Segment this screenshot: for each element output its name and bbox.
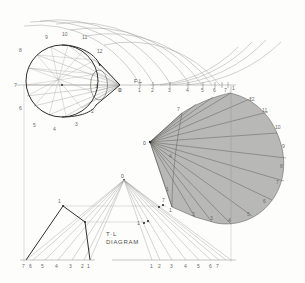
plan-label-5: 5 bbox=[33, 122, 36, 128]
tl-left-tick-7: 7 bbox=[22, 263, 25, 269]
tl-right-tick-3: 3 bbox=[170, 263, 173, 269]
dev-label-11: 11 bbox=[262, 107, 267, 113]
tl-right-tick-7: 7 bbox=[216, 263, 219, 269]
tl-left-tick-1: 1 bbox=[87, 263, 90, 269]
tl-right-tick-4: 4 bbox=[184, 263, 187, 269]
dev-label-12: 12 bbox=[249, 96, 255, 102]
radius-swing-arcs bbox=[24, 20, 281, 85]
dev-inner-label-1: 1 bbox=[166, 186, 169, 192]
fl-tick-3: 3 bbox=[168, 87, 171, 93]
tl-point-left-lower bbox=[84, 221, 86, 223]
plan-label-3: 3 bbox=[75, 121, 78, 127]
plan-label-4: 4 bbox=[53, 126, 56, 132]
tl-point-right-lower-b bbox=[143, 222, 145, 224]
dev-inner-label-4: 4 bbox=[169, 153, 172, 159]
fl-tick-2: 2 bbox=[151, 87, 154, 93]
cone-upper-outline bbox=[62, 45, 100, 66]
plan-apex-label: 0 bbox=[118, 87, 121, 93]
tl-point-right-upper-b bbox=[158, 206, 160, 208]
dev-label-1-top: 1 bbox=[232, 85, 235, 91]
tl-caption-line1: T·L bbox=[106, 231, 117, 237]
cone-base-circle bbox=[26, 45, 98, 117]
fl-baseline-scale: F.L 0 1 2 3 4 5 6 7 bbox=[16, 78, 236, 93]
plan-label-11: 11 bbox=[82, 34, 87, 40]
tl-left-tick-4: 4 bbox=[55, 263, 58, 269]
plan-label-6: 6 bbox=[19, 105, 22, 111]
dev-label-4: 4 bbox=[228, 217, 231, 223]
dev-label-3: 3 bbox=[210, 215, 213, 221]
tl-right-tick-2: 2 bbox=[158, 263, 161, 269]
dev-label-5: 5 bbox=[247, 211, 250, 217]
tl-apex-label: 0 bbox=[121, 173, 124, 179]
dev-label-1-bot: 1 bbox=[169, 207, 172, 213]
tl-right-tick-6: 6 bbox=[209, 263, 212, 269]
tl-left-tick-6: 6 bbox=[29, 263, 32, 269]
dev-label-9: 9 bbox=[282, 143, 285, 149]
plan-centre-mark bbox=[61, 84, 63, 86]
dev-label-10: 10 bbox=[275, 124, 281, 130]
technical-drawing-canvas: F.L 0 1 2 3 4 5 6 7 bbox=[0, 0, 305, 283]
fl-tick-1: 1 bbox=[138, 87, 141, 93]
plan-label-10: 10 bbox=[62, 31, 68, 37]
tl-point-right-lower bbox=[147, 220, 149, 222]
dev-apex-label: 0 bbox=[143, 140, 146, 146]
dev-label-7: 7 bbox=[276, 179, 279, 185]
tl-left-tick-3: 3 bbox=[69, 263, 72, 269]
dev-inner-label-7: 7 bbox=[177, 106, 180, 112]
tl-label-right-7: 7 bbox=[162, 197, 165, 203]
dev-label-6: 6 bbox=[263, 198, 266, 204]
tl-right-tick-1: 1 bbox=[150, 263, 153, 269]
fl-axis-label: F.L bbox=[134, 78, 142, 84]
plan-label-1: 1 bbox=[95, 83, 98, 89]
tl-label-right-1: 1 bbox=[137, 220, 140, 226]
dev-label-8: 8 bbox=[280, 163, 283, 169]
tl-point-left-upper bbox=[62, 205, 64, 207]
plan-label-12: 12 bbox=[97, 48, 103, 54]
plan-label-9: 9 bbox=[45, 34, 48, 40]
cone-pattern-development: 0 1 12 11 10 9 8 7 6 5 4 3 2 1 7 4 1 bbox=[143, 85, 286, 225]
cone-element-lines bbox=[26, 45, 120, 116]
dev-label-2: 2 bbox=[192, 211, 195, 217]
tl-point-right-upper bbox=[162, 204, 164, 206]
tl-caption-line2: DIAGRAM bbox=[106, 239, 139, 245]
fl-tick-4: 4 bbox=[186, 87, 189, 93]
tl-right-tick-5: 5 bbox=[197, 263, 200, 269]
plan-label-8: 8 bbox=[19, 47, 22, 53]
fl-tick-5: 5 bbox=[201, 87, 204, 93]
development-apex-mark bbox=[149, 141, 151, 143]
fl-tick-7: 7 bbox=[224, 87, 227, 93]
drawing-sheet: F.L 0 1 2 3 4 5 6 7 bbox=[0, 0, 305, 283]
plan-label-7: 7 bbox=[14, 82, 17, 88]
tl-left-rays bbox=[26, 180, 124, 260]
plan-label-2: 2 bbox=[91, 108, 94, 114]
tl-left-tick-2: 2 bbox=[81, 263, 84, 269]
fl-tick-6: 6 bbox=[213, 87, 216, 93]
tl-label-left-1: 1 bbox=[58, 198, 61, 204]
tl-left-tick-5: 5 bbox=[41, 263, 44, 269]
